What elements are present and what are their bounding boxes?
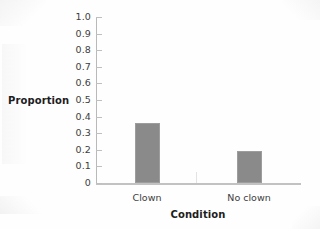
y-axis-tick-label: 0.3 — [58, 127, 91, 138]
y-axis-tick-label: 0.7 — [58, 61, 91, 72]
y-axis-tick-label: 0.1 — [58, 160, 91, 171]
x-axis-title: Condition — [96, 209, 300, 220]
y-axis-tick-label-wrap: 0.8 — [58, 44, 91, 56]
y-axis-tick-label-wrap: 0.7 — [58, 61, 91, 73]
bar — [237, 151, 262, 183]
x-axis-line — [96, 183, 301, 185]
y-axis-tick-label-wrap: 0.6 — [58, 77, 91, 89]
y-axis-tick-label-wrap: 0.2 — [58, 144, 91, 156]
y-axis-tick-label: 0 — [58, 177, 91, 188]
y-axis-tick-label-wrap: 0.1 — [58, 160, 91, 172]
y-axis-tick-label-wrap: 0.4 — [58, 111, 91, 123]
y-axis-tick-label-wrap: 1.0 — [58, 11, 91, 23]
y-axis-tick-label-wrap: 0.3 — [58, 127, 91, 139]
x-axis-category-label: No clown — [199, 192, 299, 203]
y-axis-tick-label: 1.0 — [58, 11, 91, 22]
scan-artifact-bottom-left — [0, 196, 44, 214]
y-axis-title: Proportion — [8, 95, 84, 106]
bar-chart-figure: 1.00.90.80.70.60.50.40.30.20.10 ClownNo … — [0, 0, 320, 229]
y-axis-tick-label: 0.9 — [58, 28, 91, 39]
x-axis-category-label: Clown — [97, 192, 197, 203]
y-axis-tick-label-wrap: 0.9 — [58, 28, 91, 40]
plot-area — [96, 17, 300, 183]
y-axis-tick-label: 0.6 — [58, 77, 91, 88]
y-axis-tick-label: 0.4 — [58, 111, 91, 122]
y-axis-tick-label-wrap: 0 — [58, 177, 91, 189]
scan-artifact-top-left — [0, 0, 46, 26]
y-axis-tick-label: 0.8 — [58, 44, 91, 55]
y-axis-tick — [96, 183, 102, 184]
baseline-stray-tick — [196, 172, 197, 183]
y-axis-tick-label: 0.2 — [58, 144, 91, 155]
bar — [135, 123, 160, 183]
